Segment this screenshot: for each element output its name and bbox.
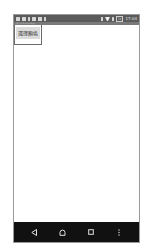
home-icon xyxy=(59,229,66,236)
wifi-icon xyxy=(105,17,110,21)
download-icon xyxy=(32,17,36,21)
image-icon xyxy=(22,17,26,21)
menu-button[interactable] xyxy=(114,227,124,237)
back-button[interactable] xyxy=(29,227,39,237)
phone-icon xyxy=(38,17,42,21)
overflow-menu-icon xyxy=(118,229,120,236)
back-icon xyxy=(31,229,37,236)
signal-icon xyxy=(112,17,114,21)
popup-window: 選擇顏色 xyxy=(14,25,42,45)
recents-icon xyxy=(88,229,94,235)
usb-icon xyxy=(28,17,30,21)
choose-color-button[interactable]: 選擇顏色 xyxy=(16,27,40,39)
phone-screen: 74 17:04 MyFirstAndroidApp 選擇顏色 xyxy=(13,14,140,243)
status-bar: 74 17:04 xyxy=(14,15,139,22)
clock: 17:04 xyxy=(125,16,137,21)
home-button[interactable] xyxy=(57,227,67,237)
status-left-icons xyxy=(16,17,46,21)
battery-indicator: 74 xyxy=(116,16,124,22)
status-right-icons: 74 17:04 xyxy=(101,16,137,22)
vibrate-icon xyxy=(101,17,103,21)
recents-button[interactable] xyxy=(86,227,96,237)
message-icon xyxy=(16,17,20,21)
sd-card-icon xyxy=(44,17,46,21)
navigation-bar xyxy=(14,222,139,242)
